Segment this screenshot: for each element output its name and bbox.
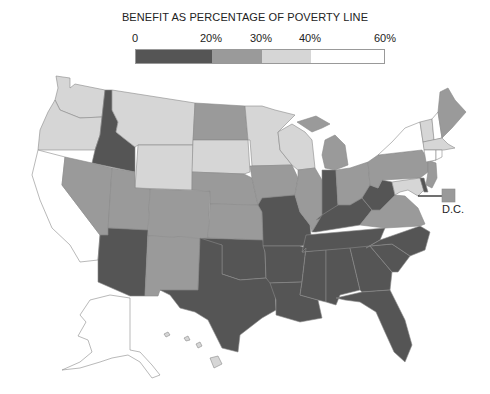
state-ar: [263, 246, 306, 283]
state-me: [438, 88, 466, 138]
state-nd: [193, 103, 248, 140]
state-fl: [336, 290, 412, 362]
state-ak: [62, 295, 160, 378]
state-sd: [192, 140, 250, 174]
state-co: [148, 189, 210, 238]
state-hi: [164, 332, 222, 368]
state-md: [392, 178, 424, 196]
state-ct: [424, 150, 436, 162]
state-az: [98, 228, 148, 296]
state-ks: [208, 204, 263, 240]
us-map: [0, 0, 490, 394]
dc-swatch: [442, 189, 455, 202]
state-mt: [112, 90, 195, 147]
dc-label: D.C.: [442, 203, 464, 215]
state-ri: [436, 150, 442, 160]
state-nm: [145, 236, 200, 296]
state-wy: [135, 145, 193, 190]
